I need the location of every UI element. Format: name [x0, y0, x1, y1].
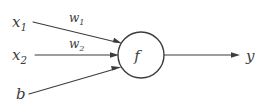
- weight-2-subscript: 2: [78, 43, 84, 53]
- input-1-subscript: 1: [20, 22, 26, 33]
- edge-bias-line: [29, 69, 115, 94]
- edge-output-arrowhead: [231, 52, 240, 58]
- input-2-label: x2: [12, 46, 27, 66]
- weight-2-label: w2: [69, 37, 84, 53]
- input-2-subscript: 2: [19, 55, 26, 66]
- edge-x1-arrowhead: [113, 38, 122, 44]
- input-1-label: x1: [12, 13, 27, 33]
- edge-bias-to-neuron: [29, 66, 122, 94]
- edge-neuron-to-output: [164, 52, 240, 58]
- edge-bias-arrowhead: [111, 66, 122, 71]
- weight-1-label: w1: [69, 11, 84, 27]
- edge-x2-to-neuron: [35, 52, 119, 58]
- diagram-canvas: x1 x2 b w1 w2 f y: [0, 0, 266, 112]
- output-label: y: [245, 47, 255, 65]
- bias-label: b: [16, 85, 26, 103]
- neuron-diagram-figure: x1 x2 b w1 w2 f y: [0, 0, 266, 112]
- activation-node-circle: [118, 32, 164, 78]
- weight-1-subscript: 1: [79, 17, 84, 27]
